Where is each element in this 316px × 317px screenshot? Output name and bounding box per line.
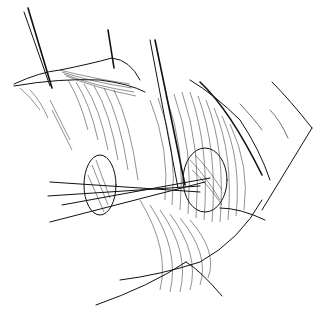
surgical-illustration	[0, 0, 316, 317]
retracted-tissue-flap	[14, 58, 145, 180]
illustration-canvas	[0, 0, 316, 317]
retractor-right	[240, 82, 312, 210]
